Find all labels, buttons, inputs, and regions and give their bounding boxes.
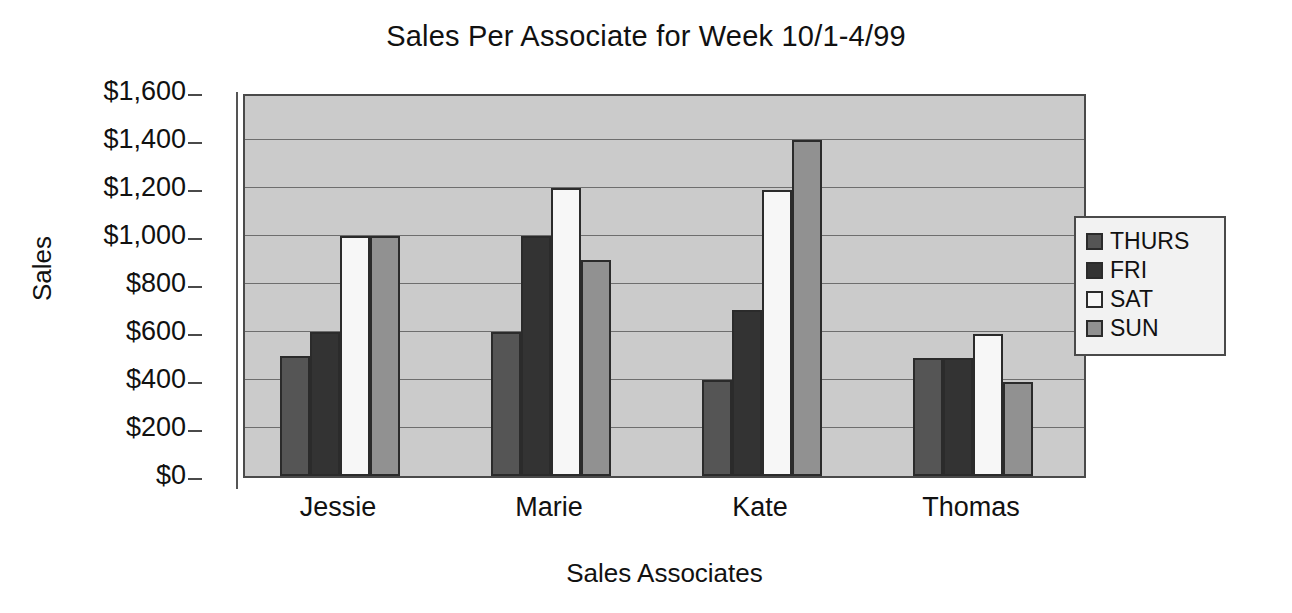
- y-axis-title: Sales: [27, 209, 58, 329]
- legend-item-fri[interactable]: FRI: [1086, 256, 1224, 285]
- bar: [732, 310, 762, 476]
- y-tick-label: $800: [126, 268, 186, 299]
- y-tick-label: $0: [156, 460, 186, 491]
- bar: [762, 190, 792, 476]
- y-tick-mark: [188, 382, 202, 384]
- bar: [491, 332, 521, 476]
- legend-swatch-icon: [1086, 233, 1103, 250]
- bar: [521, 236, 551, 476]
- y-tick-mark: [188, 430, 202, 432]
- y-tick-mark: [188, 286, 202, 288]
- bar: [1003, 382, 1033, 476]
- legend: THURSFRISATSUN: [1074, 216, 1226, 356]
- bar: [280, 356, 310, 476]
- legend-label: FRI: [1110, 259, 1147, 282]
- y-tick-label: $200: [126, 412, 186, 443]
- legend-swatch-icon: [1086, 291, 1103, 308]
- bar: [310, 332, 340, 476]
- y-tick-mark: [188, 238, 202, 240]
- y-tick-label: $1,200: [103, 172, 186, 203]
- bar: [551, 188, 581, 476]
- y-tick-mark: [188, 334, 202, 336]
- y-tick-mark: [188, 478, 202, 480]
- chart-title: Sales Per Associate for Week 10/1-4/99: [0, 20, 1292, 53]
- legend-swatch-icon: [1086, 262, 1103, 279]
- gridline-1400: [245, 139, 1084, 140]
- bar: [702, 380, 732, 476]
- x-axis-title: Sales Associates: [243, 558, 1086, 589]
- legend-item-sat[interactable]: SAT: [1086, 285, 1224, 314]
- bar: [943, 358, 973, 476]
- x-axis-label-marie: Marie: [449, 492, 649, 523]
- bar: [973, 334, 1003, 476]
- y-axis-spine: [236, 92, 238, 489]
- legend-label: THURS: [1110, 230, 1189, 253]
- y-tick-label: $600: [126, 316, 186, 347]
- y-tick-mark: [188, 94, 202, 96]
- legend-label: SUN: [1110, 317, 1159, 340]
- legend-swatch-icon: [1086, 320, 1103, 337]
- y-tick-mark: [188, 142, 202, 144]
- bar: [370, 236, 400, 476]
- x-axis-label-thomas: Thomas: [871, 492, 1071, 523]
- legend-item-thurs[interactable]: THURS: [1086, 227, 1224, 256]
- bar: [913, 358, 943, 476]
- y-tick-label: $1,000: [103, 220, 186, 251]
- x-axis-label-jessie: Jessie: [238, 492, 438, 523]
- y-tick-mark: [188, 190, 202, 192]
- gridline-1200: [245, 187, 1084, 188]
- x-axis-label-kate: Kate: [660, 492, 860, 523]
- legend-label: SAT: [1110, 288, 1153, 311]
- y-tick-label: $1,600: [103, 76, 186, 107]
- plot-area: [243, 94, 1086, 478]
- bar: [792, 140, 822, 476]
- bar: [340, 236, 370, 476]
- bar: [581, 260, 611, 476]
- y-tick-label: $1,400: [103, 124, 186, 155]
- y-tick-label: $400: [126, 364, 186, 395]
- legend-item-sun[interactable]: SUN: [1086, 314, 1224, 343]
